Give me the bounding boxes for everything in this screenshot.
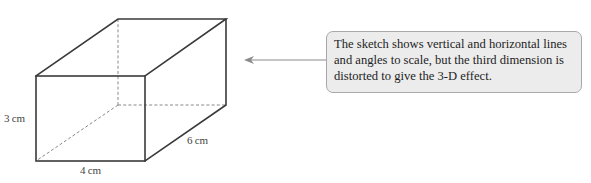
- front-face: [36, 76, 145, 161]
- pointer-arrow: [244, 56, 326, 64]
- callout-line-2: and angles to scale, but the third dimen…: [334, 52, 575, 68]
- callout-line-1: The sketch shows vertical and horizontal…: [334, 36, 575, 52]
- depth-label: 6 cm: [187, 134, 208, 146]
- hidden-edge-depth: [36, 105, 118, 161]
- right-face-edges: [145, 19, 226, 161]
- top-face-edges: [36, 19, 226, 76]
- callout-line-3: distorted to give the 3-D effect.: [334, 68, 575, 84]
- height-label: 3 cm: [4, 112, 25, 124]
- callout-box: The sketch shows vertical and horizontal…: [326, 31, 582, 93]
- width-label: 4 cm: [80, 164, 101, 176]
